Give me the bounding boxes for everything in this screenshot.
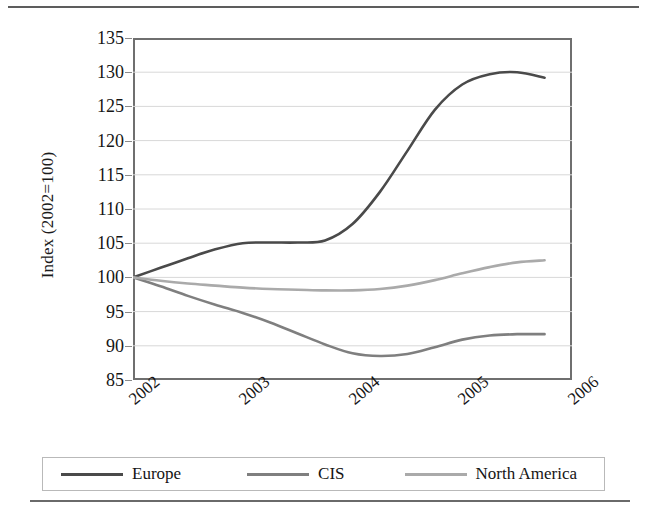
- y-axis-tick-label: 100: [72, 268, 124, 286]
- legend-label: CIS: [318, 464, 344, 484]
- series-lines: [133, 72, 545, 356]
- legend-item-europe[interactable]: Europe: [61, 464, 181, 484]
- legend-items: EuropeCISNorth America: [43, 458, 604, 490]
- chart-legend: EuropeCISNorth America: [42, 457, 605, 491]
- series-line-north-america: [133, 260, 545, 290]
- y-axis-tick-label: 125: [72, 97, 124, 115]
- legend-item-north-america[interactable]: North America: [405, 464, 578, 484]
- y-axis-tick-mark: [125, 312, 132, 313]
- bottom-divider-rule: [30, 500, 630, 502]
- y-axis-tick-mark: [125, 38, 132, 39]
- y-axis-tick-label: 120: [72, 132, 124, 150]
- y-axis-tick-label: 115: [72, 166, 124, 184]
- plot-canvas: [133, 38, 572, 380]
- y-axis-tick-mark: [125, 175, 132, 176]
- legend-line-swatch: [247, 473, 309, 476]
- y-axis-tick-mark: [125, 72, 132, 73]
- y-axis-tick-mark: [125, 106, 132, 107]
- y-axis-tick-labels: 135130125120115110105100959085: [62, 0, 124, 420]
- y-axis-tick-mark: [125, 380, 132, 381]
- legend-label: North America: [476, 464, 578, 484]
- chart-figure: Index (2002=100) 13513012512011511010510…: [0, 0, 647, 517]
- y-axis-tick-mark: [125, 243, 132, 244]
- y-axis-tick-mark: [125, 277, 132, 278]
- y-axis-tick-label: 105: [72, 234, 124, 252]
- y-axis-tick-label: 110: [72, 200, 124, 218]
- y-axis-tick-mark: [125, 141, 132, 142]
- y-axis-tick-label: 90: [72, 337, 124, 355]
- y-axis-title: Index (2002=100): [38, 85, 58, 345]
- plot-area: [133, 38, 572, 380]
- y-axis-tick-label: 135: [72, 29, 124, 47]
- gridlines: [133, 72, 572, 346]
- legend-line-swatch: [61, 473, 123, 476]
- legend-line-swatch: [405, 473, 467, 476]
- series-line-cis: [133, 277, 545, 356]
- y-axis-tick-label: 130: [72, 63, 124, 81]
- y-axis-tick-mark: [125, 209, 132, 210]
- y-axis-tick-label: 85: [72, 371, 124, 389]
- y-axis-tick-mark: [125, 346, 132, 347]
- legend-item-cis[interactable]: CIS: [247, 464, 344, 484]
- legend-label: Europe: [132, 464, 181, 484]
- y-axis-tick-label: 95: [72, 303, 124, 321]
